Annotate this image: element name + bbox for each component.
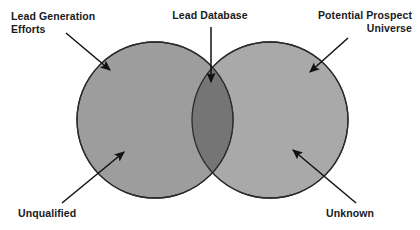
label-lead-database: Lead Database <box>162 9 258 22</box>
label-potential-prospect-universe: Potential Prospect Universe <box>300 9 412 35</box>
label-unqualified: Unqualified <box>18 207 108 220</box>
label-lead-generation-efforts: Lead Generation Efforts <box>11 10 121 36</box>
label-unknown: Unknown <box>326 207 414 220</box>
arrow-potential-prospect-universe <box>310 38 348 72</box>
arrow-lead-generation-efforts <box>66 33 110 70</box>
venn-diagram-canvas: Lead Generation Efforts Lead Database Po… <box>0 0 420 230</box>
